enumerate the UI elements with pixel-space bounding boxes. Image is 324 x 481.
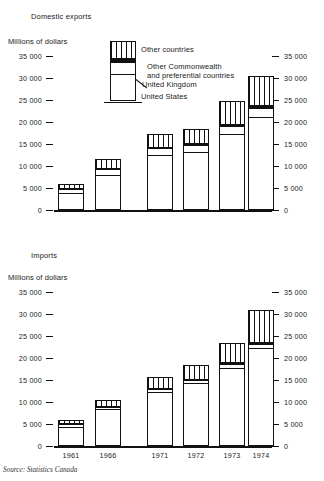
exports-1971-seg-other-countries bbox=[148, 134, 172, 147]
exports-1971-seg-united-kingdom bbox=[148, 148, 172, 155]
imports-ytick-dash-left-15000 bbox=[46, 380, 53, 381]
legend-swatch bbox=[110, 41, 136, 101]
exports-1971-seg-other-commonwealth bbox=[148, 147, 172, 149]
xtick-label-1966: 1966 bbox=[92, 451, 124, 460]
imports-bar-1974[interactable] bbox=[248, 310, 274, 446]
exports-bar-1974[interactable] bbox=[248, 76, 274, 210]
exports-ytick-right-5000: 5 000 bbox=[284, 184, 324, 193]
imports-bar-1971[interactable] bbox=[147, 377, 173, 446]
exports-1972-seg-other-commonwealth bbox=[184, 143, 208, 145]
exports-1974-seg-united-kingdom bbox=[249, 108, 273, 117]
imports-1961-seg-united-kingdom bbox=[59, 424, 83, 426]
exports-ytick-dash-left-15000 bbox=[46, 144, 53, 145]
imports-1973-seg-united-kingdom bbox=[220, 364, 244, 368]
legend-label-other-commonwealth-line1: Other Commonwealth bbox=[147, 62, 222, 71]
exports-bar-1972[interactable] bbox=[183, 129, 209, 210]
imports-1973-seg-united-states bbox=[220, 368, 244, 445]
exports-ytick-left-25000: 25 000 bbox=[0, 96, 42, 105]
exports-1966-seg-united-kingdom bbox=[96, 169, 120, 174]
imports-ytick-right-15000: 15 000 bbox=[284, 376, 324, 385]
imports-ytick-right-10000: 10 000 bbox=[284, 398, 324, 407]
exports-ytick-right-25000: 25 000 bbox=[284, 96, 324, 105]
exports-1974-seg-other-countries bbox=[249, 76, 273, 105]
imports-1973-seg-other-countries bbox=[220, 343, 244, 362]
imports-ytick-dash-left-0 bbox=[46, 446, 53, 447]
imports-1961-seg-other-commonwealth bbox=[59, 423, 83, 424]
imports-ytick-left-5000: 5 000 bbox=[0, 420, 42, 429]
imports-panel: Imports Millions of dollars 35 000 30 00… bbox=[0, 240, 324, 481]
imports-ytick-right-20000: 20 000 bbox=[284, 354, 324, 363]
imports-1971-seg-other-countries bbox=[148, 377, 172, 388]
source-note: Source: Statistics Canada bbox=[3, 466, 77, 474]
imports-ytick-left-10000: 10 000 bbox=[0, 398, 42, 407]
exports-1973-seg-united-kingdom bbox=[220, 126, 244, 134]
exports-ytick-dash-left-0 bbox=[46, 210, 53, 211]
exports-1961-seg-united-states bbox=[59, 193, 83, 209]
exports-ytick-left-15000: 15 000 bbox=[0, 140, 42, 149]
imports-bar-1966[interactable] bbox=[95, 400, 121, 446]
exports-ytick-dash-left-35000 bbox=[46, 56, 53, 57]
exports-bar-1966[interactable] bbox=[95, 159, 121, 210]
exports-baseline bbox=[54, 210, 272, 212]
imports-ytick-right-0: 0 bbox=[284, 442, 324, 451]
exports-bar-1961[interactable] bbox=[58, 184, 84, 210]
imports-1966-seg-other-commonwealth bbox=[96, 406, 120, 407]
exports-axis-unit-label: Millions of dollars bbox=[8, 37, 67, 46]
imports-ytick-dash-left-35000 bbox=[46, 292, 53, 293]
exports-bar-1971[interactable] bbox=[147, 134, 173, 210]
imports-1974-seg-united-states bbox=[249, 348, 273, 445]
imports-bar-1961[interactable] bbox=[58, 420, 84, 446]
imports-ytick-left-30000: 30 000 bbox=[0, 310, 42, 319]
imports-ytick-left-35000: 35 000 bbox=[0, 288, 42, 297]
imports-1972-seg-other-countries bbox=[184, 365, 208, 379]
exports-1972-seg-united-states bbox=[184, 152, 208, 209]
exports-1966-seg-other-countries bbox=[96, 159, 120, 168]
exports-ytick-right-15000: 15 000 bbox=[284, 140, 324, 149]
imports-ytick-left-15000: 15 000 bbox=[0, 376, 42, 385]
exports-ytick-dash-left-30000 bbox=[46, 78, 53, 79]
imports-1972-seg-united-states bbox=[184, 383, 208, 445]
exports-1974-seg-united-states bbox=[249, 117, 273, 209]
imports-ytick-left-0: 0 bbox=[0, 442, 42, 451]
imports-ytick-dash-right-35000 bbox=[272, 292, 279, 293]
xtick-label-1961: 1961 bbox=[55, 451, 87, 460]
legend-swatch-other-commonwealth bbox=[111, 58, 135, 62]
exports-ytick-left-5000: 5 000 bbox=[0, 184, 42, 193]
imports-ytick-right-35000: 35 000 bbox=[284, 288, 324, 297]
exports-1974-seg-other-commonwealth bbox=[249, 105, 273, 108]
imports-ytick-dash-left-20000 bbox=[46, 358, 53, 359]
imports-1971-seg-united-states bbox=[148, 392, 172, 445]
imports-bar-1973[interactable] bbox=[219, 343, 245, 446]
legend-label-other-countries: Other countries bbox=[141, 45, 194, 54]
exports-ytick-right-10000: 10 000 bbox=[284, 162, 324, 171]
exports-1961-seg-other-countries bbox=[59, 184, 83, 188]
exports-1972-seg-united-kingdom bbox=[184, 145, 208, 152]
exports-ytick-dash-right-0 bbox=[272, 210, 279, 211]
imports-ytick-dash-left-5000 bbox=[46, 424, 53, 425]
imports-bar-1972[interactable] bbox=[183, 365, 209, 446]
exports-1971-seg-united-states bbox=[148, 155, 172, 209]
imports-1966-seg-united-states bbox=[96, 409, 120, 445]
imports-ytick-left-20000: 20 000 bbox=[0, 354, 42, 363]
imports-ytick-dash-left-25000 bbox=[46, 336, 53, 337]
exports-ytick-dash-left-20000 bbox=[46, 122, 53, 123]
exports-ytick-left-30000: 30 000 bbox=[0, 74, 42, 83]
exports-1966-seg-united-states bbox=[96, 175, 120, 209]
exports-ytick-right-0: 0 bbox=[284, 206, 324, 215]
legend-swatch-united-states bbox=[111, 74, 135, 100]
exports-ytick-left-35000: 35 000 bbox=[0, 52, 42, 61]
imports-panel-title: Imports bbox=[31, 251, 57, 260]
xtick-label-1971: 1971 bbox=[144, 451, 176, 460]
imports-1961-seg-other-countries bbox=[59, 420, 83, 423]
exports-bar-1973[interactable] bbox=[219, 101, 245, 210]
exports-1973-seg-other-countries bbox=[220, 101, 244, 124]
exports-panel: Domestic exports Millions of dollars 35 … bbox=[0, 0, 324, 240]
imports-1974-seg-other-countries bbox=[249, 310, 273, 342]
imports-axis-unit-label: Millions of dollars bbox=[8, 273, 67, 282]
xtick-label-1973: 1973 bbox=[216, 451, 248, 460]
exports-ytick-right-30000: 30 000 bbox=[284, 74, 324, 83]
legend-swatch-baseline bbox=[104, 102, 142, 103]
imports-1974-seg-united-kingdom bbox=[249, 344, 273, 348]
exports-1972-seg-other-countries bbox=[184, 129, 208, 143]
imports-ytick-dash-right-0 bbox=[272, 446, 279, 447]
